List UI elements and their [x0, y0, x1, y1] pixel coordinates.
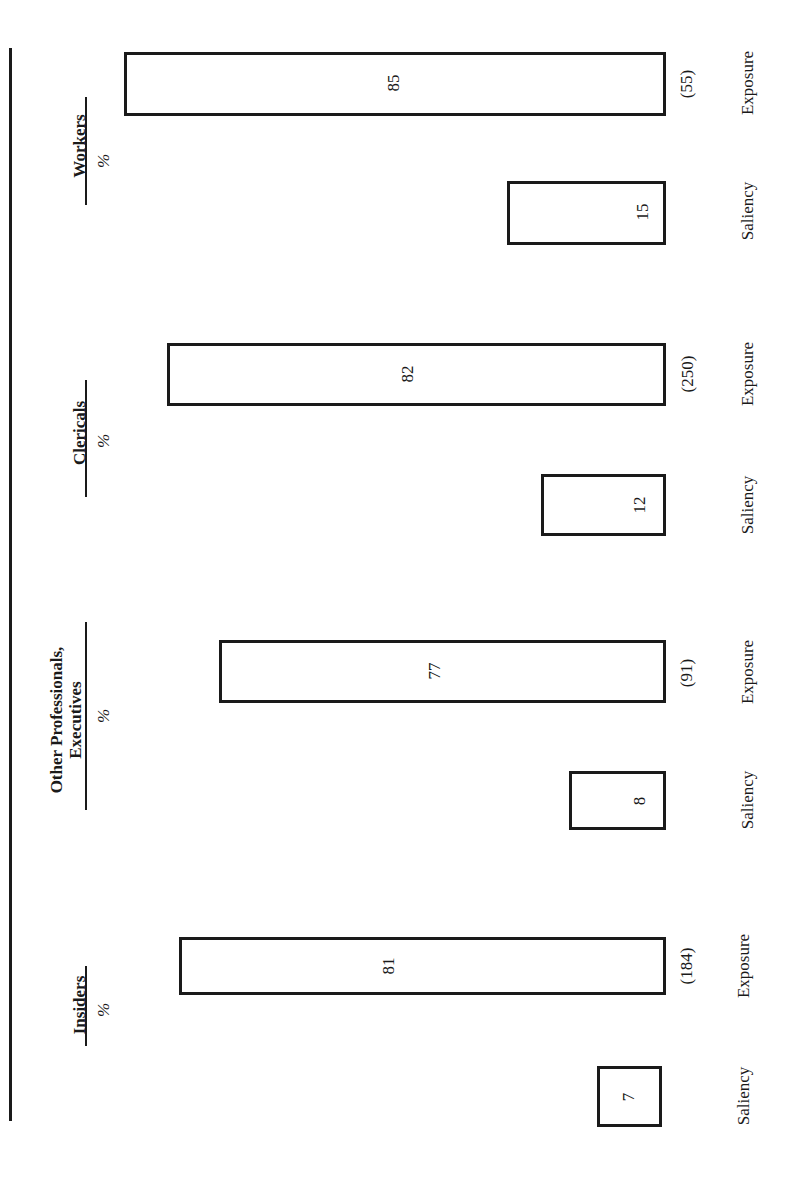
series-label-saliency: Saliency — [738, 465, 760, 545]
bar-value: 81 — [379, 950, 401, 982]
n-label: (55) — [677, 64, 699, 104]
left-rule — [9, 48, 12, 1121]
series-label-saliency: Saliency — [734, 1056, 756, 1136]
bar-exposure — [179, 937, 666, 995]
category-title: Workers — [70, 91, 90, 201]
unit-label: % — [94, 424, 114, 448]
series-label-exposure: Exposure — [734, 926, 756, 1006]
category-underline — [85, 97, 87, 205]
bar-value: 77 — [425, 655, 447, 687]
category-underline — [85, 622, 87, 810]
n-label: (91) — [677, 653, 699, 693]
bar-value: 12 — [630, 489, 652, 521]
series-label-saliency: Saliency — [738, 171, 760, 251]
category-title: Clericals — [70, 378, 90, 488]
unit-label: % — [94, 144, 114, 168]
category-title: Insiders — [70, 950, 90, 1060]
n-label: (184) — [677, 941, 699, 991]
category-title-line2: Executives — [66, 645, 85, 795]
category-title: Other Professionals, Executives — [47, 645, 87, 795]
series-label-exposure: Exposure — [738, 334, 760, 414]
bar-value: 85 — [384, 67, 406, 99]
bar-value: 82 — [398, 358, 420, 390]
n-label: (250) — [678, 351, 700, 397]
unit-label: % — [94, 993, 114, 1017]
category-underline — [85, 966, 87, 1046]
bar-value: 15 — [633, 196, 655, 228]
bar-value: 8 — [630, 785, 652, 817]
series-label-saliency: Saliency — [738, 760, 760, 840]
unit-label: % — [94, 699, 114, 723]
bar-value: 7 — [619, 1081, 641, 1113]
category-title-line1: Other Professionals, — [47, 645, 66, 795]
series-label-exposure: Exposure — [738, 632, 760, 712]
series-label-exposure: Exposure — [738, 43, 760, 123]
category-underline — [85, 380, 87, 497]
